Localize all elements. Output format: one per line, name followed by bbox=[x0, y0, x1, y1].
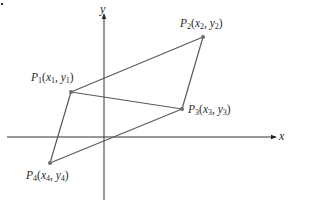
label-p3: P3(x3, y3) bbox=[188, 104, 231, 117]
y-axis-label: y bbox=[100, 3, 105, 15]
label-p2: P2(x2, y2) bbox=[180, 18, 223, 31]
paren: ) bbox=[65, 169, 69, 181]
edge-p1-p2 bbox=[71, 37, 203, 92]
paren: ) bbox=[70, 71, 74, 83]
edge-p4-p1 bbox=[50, 92, 71, 163]
point-p4 bbox=[48, 161, 52, 165]
edge-p1-p3 bbox=[71, 92, 182, 109]
label-p3-name: P bbox=[188, 103, 195, 115]
point-p2 bbox=[201, 35, 205, 39]
label-p1: P1(x1, y1) bbox=[31, 72, 74, 85]
label-p2-name: P bbox=[180, 17, 187, 29]
edge-p2-p3 bbox=[182, 37, 203, 109]
paren: ) bbox=[219, 17, 223, 29]
x-axis-label: x bbox=[279, 130, 284, 142]
quadrilateral-edges bbox=[50, 37, 203, 163]
point-p3 bbox=[180, 107, 184, 111]
paren: ) bbox=[227, 103, 231, 115]
label-p4: P4(x4, y4) bbox=[26, 170, 69, 183]
edge-p3-p4 bbox=[50, 109, 182, 163]
point-p1 bbox=[69, 90, 73, 94]
label-p1-name: P bbox=[31, 71, 38, 83]
label-p4-name: P bbox=[26, 169, 33, 181]
